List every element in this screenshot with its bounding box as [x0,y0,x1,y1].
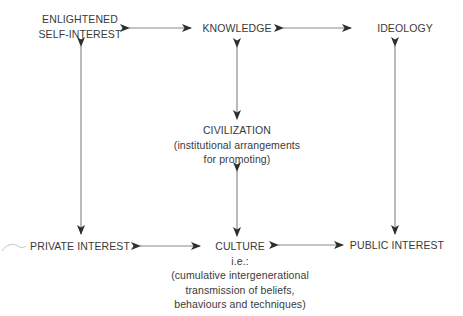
node-line: SELF-INTEREST [30,27,130,42]
squiggle-mark [2,244,26,251]
node-line: (cumulative intergenerational [165,268,315,283]
node-line: behaviours and techniques) [165,297,315,312]
node-title: IDEOLOGY [355,21,455,36]
node-title: CULTURE [165,239,315,254]
node-enlightened-self-interest: ENLIGHTENED SELF-INTEREST [30,12,130,41]
node-ideology: IDEOLOGY [355,21,455,36]
node-civilization: CIVILIZATION (institutional arrangements… [167,123,307,167]
node-culture: CULTURE i.e.: (cumulative intergeneratio… [165,239,315,312]
node-title: PRIVATE INTEREST [28,239,132,254]
node-title: PUBLIC INTEREST [345,238,449,253]
node-line: (institutional arrangements [167,138,307,153]
node-title: KNOWLEDGE [187,21,287,36]
node-line: ENLIGHTENED [30,12,130,27]
node-public-interest: PUBLIC INTEREST [345,238,449,253]
node-line: for promoting) [167,152,307,167]
node-line: transmission of beliefs, [165,283,315,298]
node-private-interest: PRIVATE INTEREST [28,239,132,254]
node-knowledge: KNOWLEDGE [187,21,287,36]
node-title: CIVILIZATION [167,123,307,138]
node-line: i.e.: [165,254,315,269]
